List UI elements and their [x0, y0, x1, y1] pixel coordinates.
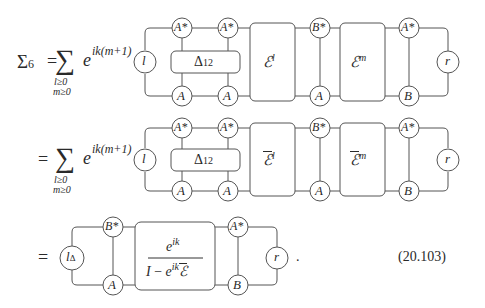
row3-shapes	[60, 217, 288, 295]
sum-limit-m: m≥0	[53, 184, 71, 195]
node-top-3: B*	[312, 20, 325, 35]
node-top-1: A*	[174, 20, 187, 35]
trailing-period: .	[296, 249, 300, 265]
equals-sign: =	[38, 149, 48, 170]
exp-power: ik(m+1)	[92, 142, 131, 157]
node-A: A	[108, 277, 116, 293]
fraction-numerator: eik	[166, 236, 179, 255]
equals-sign: =	[38, 247, 48, 268]
node-top-3: B*	[312, 120, 325, 135]
node-bottom-2: A	[223, 88, 231, 104]
block-E-bar-l: ℰl	[263, 150, 275, 169]
node-r: r	[274, 249, 279, 265]
sum-limit-m: m≥0	[53, 86, 71, 97]
node-top-4: A*	[401, 120, 414, 135]
node-r: r	[445, 53, 450, 69]
node-top-2: A*	[220, 20, 233, 35]
node-l: l	[142, 53, 146, 69]
equation-number: (20.103)	[398, 249, 446, 265]
node-l: l	[142, 151, 146, 167]
node-bottom-1: A	[177, 88, 185, 104]
node-l-delta: lΔ	[66, 249, 75, 265]
fraction-denominator: I − eikℰ	[146, 261, 187, 280]
node-top-4: A*	[401, 20, 414, 35]
delta-12-box: Δ12	[194, 54, 213, 70]
node-bottom-4: B	[404, 88, 412, 104]
block-E-l: ℰl	[263, 52, 275, 71]
sum-symbol: ∑	[55, 142, 75, 174]
node-bottom-2: A	[223, 183, 231, 199]
exp-base: e	[83, 148, 91, 169]
node-top-1: A*	[174, 120, 187, 135]
node-B: B	[233, 277, 241, 293]
node-top-2: A*	[220, 120, 233, 135]
lhs-sigma: Σ6	[17, 51, 34, 73]
node-bottom-3: A	[315, 183, 323, 199]
exp-base: e	[83, 50, 91, 71]
node-A-star: A*	[230, 219, 243, 234]
node-B-star: B*	[105, 219, 118, 234]
node-bottom-1: A	[177, 183, 185, 199]
node-bottom-4: B	[404, 183, 412, 199]
exp-power: ik(m+1)	[92, 44, 131, 59]
sum-symbol: ∑	[55, 44, 75, 76]
node-r: r	[445, 151, 450, 167]
delta-12-box: Δ12	[194, 152, 213, 168]
block-E-m: ℰm	[350, 52, 366, 71]
block-E-bar-m: ℰm	[350, 150, 366, 169]
node-bottom-3: A	[315, 88, 323, 104]
